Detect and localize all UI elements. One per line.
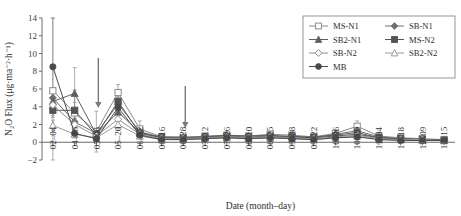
marker-filled-circle [316,64,322,70]
legend-label: SB-N2 [333,48,357,58]
x-axis-tick-label: 06–02 [135,127,145,150]
x-axis-title: Date (month–day) [226,201,295,212]
marker-open-triangle [115,121,122,128]
x-axis-tick-label: 11–18 [396,127,406,150]
x-axis-tick-label: 09–22 [309,127,319,150]
y-axis-tick-label: 6 [33,84,38,94]
legend-label: SB2-N2 [409,48,437,58]
chart-figure: MS-N1SB-N1SB2-N1MS-N2SB-N2SB2-N2MB −2024… [0,0,461,216]
n2o-flux-line-chart: MS-N1SB-N1SB2-N1MS-N2SB-N2SB2-N2MB −2024… [0,0,461,216]
arrow-head [95,102,101,108]
y-axis-tick-label: −2 [27,155,37,165]
marker-open-square [316,23,322,29]
marker-filled-circle [50,64,56,70]
y-axis-tick-label: 14 [28,13,38,23]
y-axis-tick-label: 12 [28,31,37,41]
marker-filled-circle [115,105,121,111]
marker-open-square [115,89,121,95]
marker-filled-square [392,37,398,43]
x-axis-tick-label: 06–16 [157,126,167,149]
x-axis-tick-label: 11–04 [374,127,384,150]
x-axis-tick-label: 02–04 [48,126,58,149]
x-axis-tick-label: 12–09 [418,126,428,149]
x-axis-tick-label: 09–08 [287,126,297,149]
x-axis-tick-label: 10–06 [331,126,341,149]
y-axis-tick-label: 4 [33,102,38,112]
marker-filled-square [115,98,121,104]
x-axis-tick-label: 04–15 [70,126,80,149]
y-axis-tick-label: 8 [33,66,38,76]
marker-filled-square [72,107,78,113]
chart-legend: MS-N1SB-N1SB2-N1MS-N2SB-N2SB2-N2MB [303,16,455,78]
x-axis-tick-label: 05–20 [113,126,123,149]
x-axis-tick-label: 12–15 [439,126,449,149]
x-axis-tick-label: 08–25 [265,126,275,149]
y-axis-tick-label: 0 [33,137,38,147]
y-axis-title: N₂O Flux (μg·ma⁻²·h⁻¹) [4,42,15,136]
annotations-layer [95,58,188,128]
x-axis-tick-label: 10–20 [352,126,362,149]
x-axis-tick-label: 07–12 [200,127,210,150]
marker-open-square [50,88,56,94]
x-axis-tick-label: 06–28 [178,126,188,149]
legend-label: MS-N2 [409,35,435,45]
legend-label: MS-N1 [333,21,359,31]
x-axis-tick-label: 08–10 [244,126,254,149]
legend-label: MB [333,62,347,72]
y-axis-tick-label: 10 [28,49,38,59]
marker-filled-triangle [71,90,78,97]
legend-label: SB-N1 [409,21,433,31]
x-axis-tick-label: 05–06 [92,126,102,149]
legend-label: SB2-N1 [333,35,361,45]
arrow-fertilization-2 [182,86,188,128]
x-axis-tick-label: 07–26 [222,126,232,149]
y-axis-tick-label: 2 [33,120,38,130]
arrow-fertilization-1 [95,58,101,108]
